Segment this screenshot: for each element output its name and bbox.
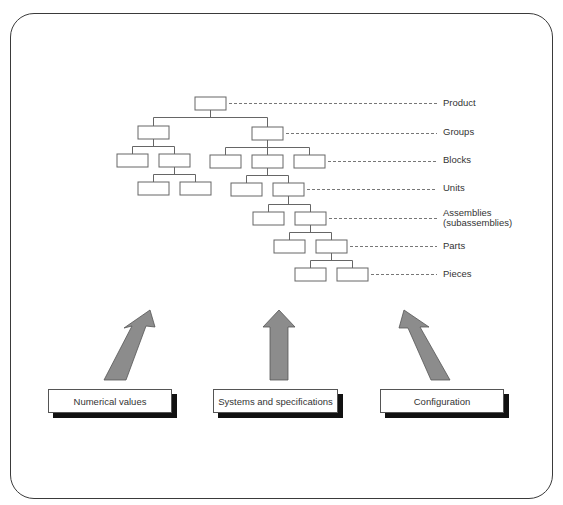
level-label-parts: Parts: [443, 241, 465, 251]
source-box-systems-specifications: Systems and specifications: [213, 389, 338, 413]
block-node: [117, 154, 148, 167]
level-label-product: Product: [443, 98, 476, 108]
piece-node: [337, 268, 368, 281]
arrow-up-left-icon: [399, 310, 450, 380]
source-label: Numerical values: [74, 396, 147, 407]
block-node: [294, 155, 325, 168]
hierarchy-tree: [0, 0, 563, 505]
arrow-up-icon: [263, 310, 295, 380]
block-node: [210, 155, 241, 168]
group-node: [252, 127, 283, 140]
assembly-node: [253, 212, 284, 225]
unit-node: [138, 182, 169, 195]
group-node: [138, 126, 169, 139]
level-label-assemblies-line2: (subassemblies): [443, 218, 512, 228]
source-label: Systems and specifications: [218, 396, 333, 407]
part-node: [316, 240, 347, 253]
source-label: Configuration: [414, 396, 471, 407]
block-node: [159, 154, 190, 167]
level-label-groups: Groups: [443, 127, 474, 137]
unit-node: [231, 183, 262, 196]
product-node: [195, 97, 226, 110]
source-box-numerical-values: Numerical values: [48, 389, 172, 413]
level-label-blocks: Blocks: [443, 155, 471, 165]
unit-node: [180, 182, 211, 195]
level-label-units: Units: [443, 183, 465, 193]
level-label-pieces: Pieces: [443, 269, 472, 279]
unit-node: [273, 183, 304, 196]
level-label-assemblies: Assemblies (subassemblies): [443, 208, 512, 228]
arrow-up-right-icon: [104, 310, 155, 380]
source-box-configuration: Configuration: [380, 389, 504, 413]
piece-node: [295, 268, 326, 281]
block-node: [252, 155, 283, 168]
part-node: [274, 240, 305, 253]
assembly-node: [295, 212, 326, 225]
